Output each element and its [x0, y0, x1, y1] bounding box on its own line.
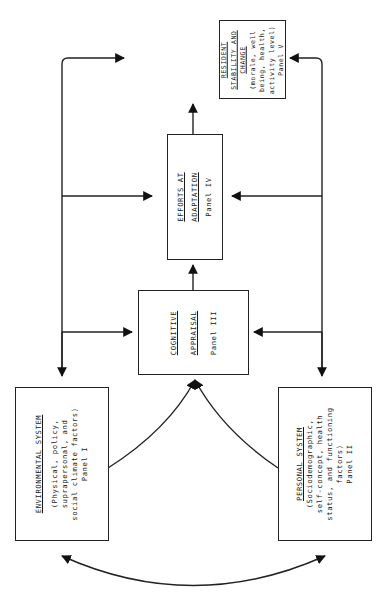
- panel-title: STABILITY AND: [229, 22, 239, 98]
- panel-title: COGNITIVE: [164, 292, 184, 374]
- panel-environmental-system: ENVIRONMENTAL SYSTEM (Physical, policy, …: [15, 387, 109, 541]
- right-feedback-bus: [290, 58, 322, 372]
- panel-label: Panel II: [345, 389, 355, 539]
- panel-description: suprapersonal, and: [60, 389, 70, 539]
- panel-label: Panel I: [80, 389, 90, 539]
- panel-title: RESIDENT: [219, 22, 229, 98]
- panel-label: Panel III: [204, 292, 224, 374]
- panel-description: factors): [335, 389, 345, 539]
- panel-title: ADAPTATION: [188, 137, 202, 257]
- panel-title: EFFORTS AT: [174, 137, 188, 257]
- panel-description: (morale, well: [248, 22, 258, 98]
- panel-cognitive-appraisal: COGNITIVE APPRAISAL Panel III: [138, 290, 249, 375]
- panel-description: status, and functioning: [325, 389, 335, 539]
- panel-title: ENVIRONMENTAL SYSTEM: [34, 389, 44, 539]
- panel-description: activity level): [267, 22, 277, 98]
- panel-efforts-at-adaptation: EFFORTS AT ADAPTATION Panel IV: [167, 134, 223, 260]
- panel-title: APPRAISAL: [184, 292, 204, 374]
- panel-label: Panel IV: [202, 137, 216, 257]
- panel-description: being, health,: [257, 22, 267, 98]
- panel-label: Panel V: [276, 22, 286, 98]
- panel-title: CHANGE: [238, 22, 248, 98]
- panel-description: self-concept, health: [315, 389, 325, 539]
- panel-description: social climate factors): [70, 389, 80, 539]
- panel-description: (Physical, policy,: [50, 389, 60, 539]
- panel-description: (Sociodemographic,: [305, 389, 315, 539]
- panel-personal-system: PERSONAL SYSTEM (Sociodemographic, self-…: [278, 387, 372, 541]
- panel-title: PERSONAL SYSTEM: [295, 389, 305, 539]
- panel-resident-stability-and-change: RESIDENT STABILITY AND CHANGE (morale, w…: [219, 20, 286, 99]
- left-feedback-bus: [62, 58, 124, 372]
